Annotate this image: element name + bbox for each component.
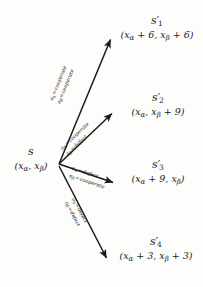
node-target-s4-prime: s′4 (xα + 3, xβ + 3) <box>111 235 201 264</box>
node-target-s3-label: s′3 <box>116 158 200 172</box>
node-target-s4-label: s′4 <box>111 235 201 249</box>
node-target-s1-prime: s′1 (xα + 6, xβ + 6) <box>113 14 201 43</box>
node-target-s3-payoff: (xα + 9, xβ) <box>116 173 200 187</box>
node-target-s4-payoff: (xα + 3, xβ + 3) <box>111 250 201 264</box>
node-target-s2-payoff: (xα, xβ + 9) <box>116 106 200 120</box>
state-transition-diagram: s (xα, xβ) s′1 (xα + 6, xβ + 6) s′2 (xα,… <box>0 0 203 287</box>
node-target-s2-label: s′2 <box>116 91 200 105</box>
node-source-payoff: (xα, xβ) <box>0 160 62 174</box>
node-target-s3-prime: s′3 (xα + 9, xβ) <box>116 158 200 187</box>
node-source-s: s (xα, xβ) <box>0 145 62 173</box>
node-target-s2-prime: s′2 (xα, xβ + 9) <box>116 91 200 120</box>
node-source-label: s <box>0 145 62 159</box>
node-target-s1-payoff: (xα + 6, xβ + 6) <box>113 29 201 43</box>
node-target-s1-label: s′1 <box>113 14 201 28</box>
